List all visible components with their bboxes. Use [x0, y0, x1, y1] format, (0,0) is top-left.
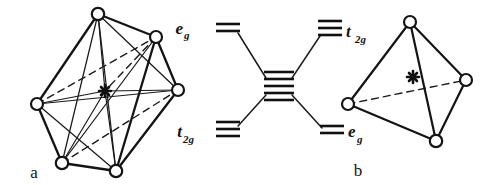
t2g-subscript-octahedral: 2g [182, 133, 195, 145]
ligand-vertex [460, 74, 472, 86]
ligand-vertex [31, 98, 43, 110]
ligand-vertex [342, 98, 354, 110]
eg-subscript-tetrahedral: g [356, 133, 363, 145]
figure-background [0, 0, 492, 185]
panel-b-caption: b [354, 161, 363, 180]
figure-canvas: a [0, 0, 492, 185]
ligand-vertex [404, 16, 416, 28]
eg-label-octahedral: e [175, 19, 183, 38]
octahedron-center-asterisk [99, 85, 111, 97]
panel-a-caption: a [30, 163, 38, 182]
t2g-subscript-tetrahedral: 2g [354, 33, 367, 45]
ligand-vertex [172, 84, 184, 96]
ligand-vertex [56, 157, 68, 169]
crystal-field-figure: a [0, 0, 492, 185]
ligand-vertex [150, 31, 162, 43]
ligand-vertex [110, 165, 122, 177]
tetrahedron-center-asterisk [407, 71, 419, 83]
ligand-vertex [92, 8, 104, 20]
ligand-vertex [430, 135, 442, 147]
eg-subscript-octahedral: g [183, 29, 190, 41]
eg-label-tetrahedral: e [348, 122, 356, 141]
